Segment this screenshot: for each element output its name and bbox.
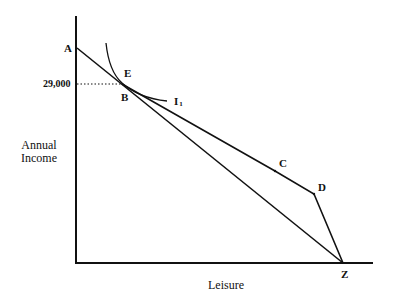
indifference-curve-subscript: 1 <box>179 100 183 108</box>
point-d-label: D <box>318 182 326 193</box>
point-z-label: Z <box>341 269 348 280</box>
point-a-label: A <box>64 43 72 54</box>
point-c-label: C <box>279 158 287 169</box>
point-c-marker <box>274 170 276 172</box>
y-axis-title-line2: Income <box>18 152 60 165</box>
y-axis-title: Annual Income <box>18 139 60 165</box>
indifference-curve-i1 <box>106 43 167 101</box>
point-e-label: E <box>124 68 131 79</box>
y-tick-29000-label: 29,000 <box>43 79 71 89</box>
point-b-label: B <box>121 92 128 103</box>
x-axis-title: Leisure <box>208 279 244 292</box>
budget-line-a-z <box>77 48 343 263</box>
point-d-marker <box>313 193 315 195</box>
indifference-curve-letter: I <box>174 95 178 107</box>
indifference-curve-label: I1 <box>174 96 183 108</box>
